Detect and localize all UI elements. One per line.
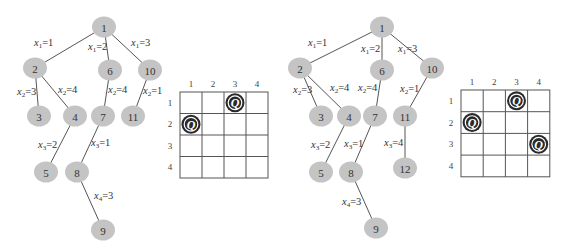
variable-value: 3 xyxy=(412,43,417,54)
node-label: 6 xyxy=(379,65,385,77)
tree-node: 9 xyxy=(364,218,388,239)
node-label: 11 xyxy=(400,111,411,123)
edge-label: x4=3 xyxy=(341,196,361,209)
chess-board: 12341234QQQ xyxy=(449,77,550,177)
variable-value: 4 xyxy=(72,84,78,95)
edge-label: x2=4 xyxy=(329,82,350,95)
edge-label: x2=4 xyxy=(357,82,378,95)
variable-value: 2 xyxy=(102,41,107,52)
tree-node: 1 xyxy=(370,17,394,38)
node-label: 3 xyxy=(36,111,42,123)
column-label: 1 xyxy=(189,79,194,89)
column-label: 2 xyxy=(492,77,497,87)
variable-value: 1 xyxy=(48,37,53,48)
tree-node: 2 xyxy=(23,58,47,79)
variable-value: 1 xyxy=(358,138,363,149)
tree-node: 10 xyxy=(420,58,444,79)
queen-symbol: Q xyxy=(468,116,477,130)
node-label: 2 xyxy=(297,63,303,75)
tree-node: 7 xyxy=(91,106,115,127)
tree-node: 12 xyxy=(393,158,417,179)
column-label: 4 xyxy=(536,77,541,87)
right-panel: x1=1x1=2x1=3x2=3x2=4x2=4x2=1x3=2x3=1x3=4… xyxy=(288,17,550,239)
column-label: 3 xyxy=(233,79,238,89)
variable-value: 4 xyxy=(398,137,404,148)
edge-label: x3=2 xyxy=(37,139,57,152)
queen-icon: Q xyxy=(182,115,201,134)
variable-value: 1 xyxy=(157,85,162,96)
node-label: 12 xyxy=(400,163,411,175)
variable-value: 1 xyxy=(105,137,110,148)
queen-symbol: Q xyxy=(512,94,521,108)
edge-label: x3=4 xyxy=(383,137,404,150)
variable-value: 3 xyxy=(108,190,113,201)
node-label: 8 xyxy=(74,167,80,179)
node-label: 2 xyxy=(32,63,38,75)
edge-label: x2=1 xyxy=(399,83,419,96)
row-label: 2 xyxy=(449,118,454,128)
tree-node: 9 xyxy=(91,220,115,241)
node-label: 11 xyxy=(128,111,139,123)
variable-value: 1 xyxy=(322,37,327,48)
edge-label: x1=1 xyxy=(307,37,327,50)
row-label: 3 xyxy=(168,141,173,151)
edge-label: x2=4 xyxy=(57,84,78,97)
node-label: 1 xyxy=(101,22,107,34)
node-label: 9 xyxy=(373,223,379,235)
variable-value: 3 xyxy=(356,196,361,207)
node-label: 10 xyxy=(145,65,157,77)
tree-node: 11 xyxy=(121,106,145,127)
edge-label: x2=1 xyxy=(142,85,162,98)
node-label: 10 xyxy=(427,63,439,75)
edge-label: x2=4 xyxy=(107,84,128,97)
variable-value: 4 xyxy=(372,82,378,93)
node-label: 8 xyxy=(348,167,354,179)
node-label: 5 xyxy=(43,167,49,179)
row-label: 1 xyxy=(449,96,454,106)
tree-node: 10 xyxy=(138,60,162,81)
column-label: 1 xyxy=(470,77,475,87)
node-label: 3 xyxy=(318,111,324,123)
edge-label: x1=3 xyxy=(130,37,150,50)
tree-node: 4 xyxy=(63,106,87,127)
edge-label: x3=1 xyxy=(90,137,110,150)
node-label: 9 xyxy=(100,225,106,237)
tree-node: 4 xyxy=(337,106,361,127)
queen-icon: Q xyxy=(507,91,526,110)
variable-value: 3 xyxy=(145,37,150,48)
edge-label: x1=2 xyxy=(87,41,107,54)
node-label: 4 xyxy=(346,111,352,123)
queen-icon: Q xyxy=(463,113,482,132)
tree-edges xyxy=(35,27,150,230)
queen-icon: Q xyxy=(529,135,548,154)
edge-label: x1=1 xyxy=(33,37,53,50)
variable-value: 2 xyxy=(325,139,330,150)
node-label: 6 xyxy=(107,65,113,77)
tree-node: 8 xyxy=(339,162,363,183)
node-label: 7 xyxy=(100,111,106,123)
chess-board: 12341234QQ xyxy=(168,79,268,178)
queen-symbol: Q xyxy=(534,138,543,152)
row-label: 4 xyxy=(449,161,454,171)
queen-symbol: Q xyxy=(187,118,196,132)
queen-symbol: Q xyxy=(231,96,240,110)
edge-label: x1=2 xyxy=(360,43,380,56)
tree-node: 2 xyxy=(288,58,312,79)
node-label: 4 xyxy=(72,111,78,123)
row-label: 3 xyxy=(449,139,454,149)
variable-value: 4 xyxy=(122,84,128,95)
row-label: 4 xyxy=(168,162,173,172)
variable-value: 3 xyxy=(307,84,312,95)
tree-node: 6 xyxy=(98,60,122,81)
edge-label: x4=3 xyxy=(93,190,113,203)
variable-value: 2 xyxy=(52,139,57,150)
queen-icon: Q xyxy=(226,93,245,112)
tree-node: 3 xyxy=(309,106,333,127)
edge-label: x2=3 xyxy=(16,86,36,99)
variable-value: 2 xyxy=(375,43,380,54)
column-label: 2 xyxy=(211,79,216,89)
tree-node: 1 xyxy=(92,17,116,38)
row-label: 2 xyxy=(168,119,173,129)
tree-node: 3 xyxy=(27,106,51,127)
column-label: 4 xyxy=(255,79,260,89)
